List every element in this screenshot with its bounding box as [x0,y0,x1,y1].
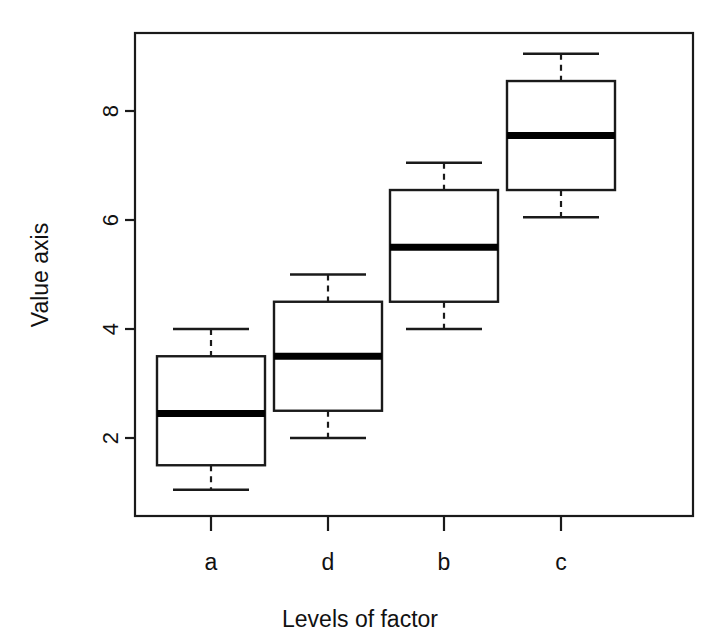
y-tick-label-6: 6 [98,214,123,226]
x-axis-title: Levels of factor [282,606,438,632]
y-tick-label-2: 2 [98,432,123,444]
box-group [157,54,615,490]
boxplot-figure: 2 4 6 8 Value axis a d b c Levels of fac… [0,0,719,644]
plot-canvas: 2 4 6 8 Value axis a d b c Levels of fac… [0,0,719,644]
x-tick-label-c: c [555,549,567,575]
y-tick-label-8: 8 [98,105,123,117]
x-tick-label-d: d [322,549,335,575]
x-tick-label-a: a [205,549,218,575]
x-tick-label-b: b [438,549,451,575]
box-d [274,275,382,439]
y-tick-label-4: 4 [98,323,123,335]
y-axis-title: Value axis [27,223,53,327]
box-c [507,54,615,218]
box-b [390,163,498,329]
box-a [157,329,265,490]
